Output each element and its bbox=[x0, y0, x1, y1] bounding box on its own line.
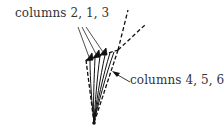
dashed-line-diagonal bbox=[118, 24, 146, 50]
cone-diagram bbox=[0, 0, 224, 127]
streamlines bbox=[90, 52, 114, 122]
dashed-extension-lines bbox=[118, 10, 146, 50]
arrowhead-col2 bbox=[86, 53, 93, 61]
leader-line-col2 bbox=[78, 27, 89, 57]
right-leader-arrow bbox=[112, 71, 130, 82]
cone-right-edge bbox=[94, 50, 118, 123]
apex-point bbox=[92, 121, 96, 125]
arrowhead-col1 bbox=[93, 50, 100, 58]
dashed-line-vertical bbox=[118, 10, 128, 50]
